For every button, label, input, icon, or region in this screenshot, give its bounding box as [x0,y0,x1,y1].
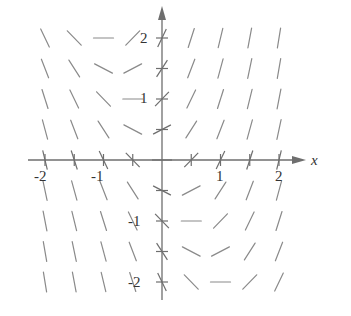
slope-segment [41,29,50,47]
slope-segment [218,59,223,78]
slope-segment [101,242,106,261]
slope-segment [124,64,142,73]
y-tick-label-neg2: -2 [128,274,141,290]
slope-segment [186,121,197,138]
slope-segment [212,247,230,256]
slope-segment [43,272,46,292]
slope-segment [215,182,226,199]
x-tick-label-neg1: -1 [91,168,104,184]
x-tick-label-neg2: -2 [34,168,47,184]
slope-segment [217,120,224,139]
slope-segment [72,211,77,230]
slope-segment [101,272,106,291]
y-tick-label-neg1: -1 [128,213,141,229]
slope-segment [43,211,47,231]
slope-segment [71,120,78,139]
slope-segment [187,90,196,108]
slope-segment [277,59,280,79]
x-axis-label: x [310,152,318,168]
slope-segment [97,92,111,106]
slope-segment [214,214,228,228]
slope-segment [247,120,252,139]
slope-segment [42,120,47,139]
y-tick-label-2: 2 [140,30,148,46]
slope-segment [218,90,224,109]
slope-segment [98,121,109,138]
slope-segment [248,28,252,48]
x-axis-arrow-icon [292,156,306,164]
slope-segment [43,242,46,262]
slope-segment [101,212,107,231]
slope-segment [72,272,76,292]
y-tick-label-1: 1 [140,90,148,106]
slope-segment [277,28,280,48]
slope-segment [127,182,138,199]
slope-segment [275,242,282,261]
slope-segment [244,243,255,260]
x-tick-label-2: 2 [275,168,283,184]
slope-segment [275,273,284,291]
slope-segment [41,59,48,78]
slope-segment [276,212,282,231]
slope-segment [277,89,281,109]
slope-segment [218,28,223,47]
slope-segment [129,242,136,261]
slope-segment [243,275,257,289]
axes [28,6,306,300]
slope-segment [246,181,253,200]
slope-segment [70,90,79,108]
y-axis-arrow-icon [158,6,166,20]
slope-segment [42,90,48,109]
slope-field-plot: x -2 -1 1 2 2 1 -1 -2 [0,0,351,316]
slope-segment [95,64,113,73]
slope-segment [188,29,194,48]
x-tick-label-1: 1 [216,168,224,184]
slope-segment [126,31,140,45]
slope-segment [124,125,142,134]
slope-segment [188,59,195,78]
slope-segment [247,89,252,108]
slope-segment [69,60,80,77]
slope-segment [72,242,76,262]
slope-segment [248,59,252,79]
slope-segment [277,120,281,140]
slope-segment [245,212,254,230]
slope-segment [72,181,77,200]
slope-segment [182,186,200,195]
slope-segment [182,247,200,256]
slope-segment [184,275,198,289]
slope-segment [67,31,81,45]
